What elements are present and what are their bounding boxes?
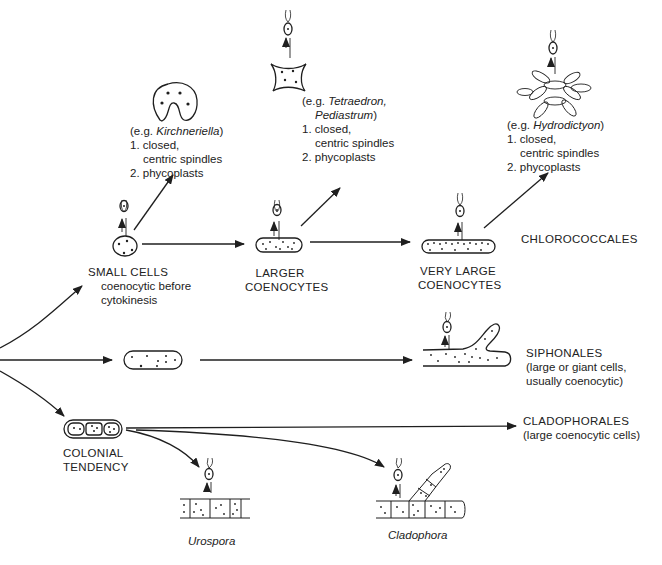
kirchneriella-caption: (e.g. Kirchneriella) 1. closed, centric … — [130, 124, 223, 180]
small-cells-label: SMALL CELLS coenocytic before cytokinesi… — [88, 265, 191, 307]
branch-arrow-to-small-cells — [0, 286, 82, 348]
arrow-to-cladophorales — [126, 426, 516, 428]
algae-evolution-diagram: (e.g. Kirchneriella) 1. closed, centric … — [0, 0, 662, 565]
larger-coenocytes-label: LARGER COENOCYTES — [245, 266, 315, 294]
kirchneriella-genus: Kirchneriella — [156, 125, 219, 137]
arrow-to-hydrodictyon — [484, 173, 548, 228]
branch-arrow-to-colonial — [0, 371, 64, 416]
tetraedron-caption: (e.g. Tetraedron, Pediastrum) 1. closed,… — [302, 94, 394, 164]
larger-coenocyte-icon — [256, 238, 302, 252]
arrow-to-cladophora — [136, 430, 384, 467]
very-large-coenocyte-icon — [422, 240, 495, 253]
cladophora-filament-icon — [376, 464, 465, 518]
tetraedron-genus: Tetraedron, — [328, 95, 386, 107]
siphonales-label: SIPHONALES (large or giant cells, usuall… — [526, 346, 626, 388]
arrow-to-kirchneriella — [134, 175, 173, 230]
pediastrum-genus: Pediastrum — [315, 109, 373, 121]
kirchneriella-cell-icon — [153, 83, 197, 121]
siphonales-tube-icon — [423, 324, 511, 366]
siphon-precursor-cell-icon — [124, 351, 182, 369]
hydrodictyon-genus: Hydrodictyon — [533, 119, 600, 131]
tetraedron-cell-icon — [271, 64, 306, 91]
arrow-to-urospora — [126, 430, 199, 467]
urospora-filament-icon — [180, 499, 250, 518]
arrow-to-tetraedron — [301, 188, 340, 226]
cladophora-label: Cladophora — [388, 528, 447, 542]
hydrodictyon-net-icon — [517, 69, 591, 121]
colonial-tendency-label: COLONIAL TENDENCY — [63, 446, 129, 474]
cladophorales-label: CLADOPHORALES (large coenocytic cells) — [523, 414, 640, 442]
hydrodictyon-caption: (e.g. Hydrodictyon) 1. closed, centric s… — [507, 118, 604, 174]
urospora-label: Urospora — [188, 534, 235, 548]
very-large-coenocytes-label: VERY LARGE COENOCYTES — [418, 264, 498, 292]
chlorococcales-label: CHLOROCOCCALES — [521, 232, 638, 246]
